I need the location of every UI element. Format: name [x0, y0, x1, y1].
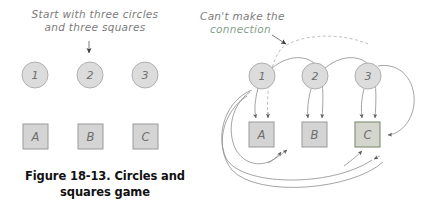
square-label: A	[31, 130, 40, 144]
callout-arrow-icon	[272, 35, 286, 44]
square-label: A	[257, 128, 266, 142]
right-square-b: B	[302, 122, 327, 147]
edge-arrow-into-b-lower	[268, 150, 287, 163]
left-circle-2: 2	[77, 62, 103, 88]
edge-3-to-c	[361, 89, 364, 118]
square-label: B	[87, 130, 95, 144]
edge-2-to-b	[308, 89, 311, 118]
figure-canvas: Start with three circles and three squar…	[0, 0, 427, 212]
figure-18-13: Start with three circles and three squar…	[0, 0, 427, 212]
left-annotation-line1: Start with three circles	[32, 8, 159, 20]
figure-caption-line2: squares game	[60, 185, 150, 199]
right-annotation-line1: Can't make the	[200, 10, 285, 22]
left-circle-1: 1	[22, 62, 48, 88]
circle-label: 1	[259, 70, 266, 83]
left-square-a: A	[23, 124, 48, 149]
circle-label: 2	[87, 69, 94, 82]
figure-caption-line1: Figure 18-13. Circles and	[25, 169, 185, 183]
circle-label: 2	[312, 70, 319, 83]
square-label: C	[141, 130, 149, 144]
left-panel-group: Start with three circles and three squar…	[22, 8, 185, 199]
edge-right-loop-to-c	[378, 65, 414, 135]
circle-label: 1	[32, 69, 39, 82]
left-square-c: C	[133, 124, 158, 149]
edge-arrow-into-c-lower	[344, 151, 362, 166]
right-circle-2: 2	[302, 63, 328, 89]
edge-lower-arc-long-head	[374, 156, 380, 159]
square-label: B	[311, 128, 319, 142]
right-circle-1: 1	[249, 63, 275, 89]
left-circle-3: 3	[132, 62, 158, 88]
right-panel-group: Can't make the connection	[200, 10, 414, 187]
circle-label: 3	[365, 70, 372, 83]
left-annotation-line2: and three squares	[44, 21, 145, 33]
right-circle-3: 3	[355, 63, 381, 89]
circle-label: 3	[142, 69, 149, 82]
edge-lower-arc-long	[222, 90, 372, 180]
edge-1-to-a	[255, 88, 258, 118]
right-annotation-line2: connection	[210, 23, 271, 35]
square-label: C	[363, 128, 371, 142]
left-square-b: B	[78, 124, 103, 149]
right-square-a: A	[249, 122, 274, 147]
right-square-c: C	[355, 122, 380, 147]
